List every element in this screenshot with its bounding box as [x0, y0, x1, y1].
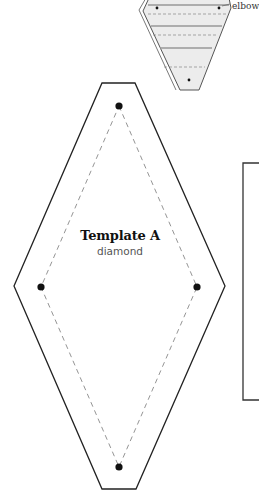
elbow-label: elbow [232, 1, 259, 11]
template-a-diamond [14, 83, 225, 489]
template-title: Template A [60, 228, 180, 243]
template-subtitle: diamond [60, 245, 180, 257]
elbow-piece [139, 0, 231, 90]
partial-template-box [243, 163, 259, 400]
